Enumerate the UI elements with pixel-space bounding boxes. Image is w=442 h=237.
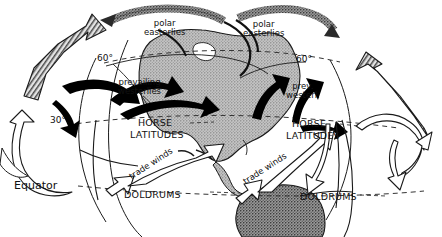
label-horse-right-line2: LATITUDES: [286, 131, 340, 141]
label-horse-right-line1: HORSE: [292, 119, 326, 129]
label-prevailing-westerlies: prevailing westerlies: [118, 78, 161, 95]
label-doldrums-left: DOLDRUMS: [124, 190, 181, 200]
label-latitude-30-left: 30°: [50, 116, 66, 125]
label-latitude-60-left: 60°: [97, 54, 113, 63]
label-equator: Equator: [14, 180, 57, 191]
polar-easterlies-right-line2: easterlies: [243, 29, 284, 38]
wind-circulation-diagram: polar easterlies polar easterlies 60° 60…: [0, 0, 442, 237]
landmass-north-america: [139, 30, 300, 162]
label-prev-westerlies-right: prev. westerl.: [286, 82, 320, 99]
cell-arrow-right-lower: [388, 132, 432, 190]
cell-arrow-right-upper: [356, 114, 424, 150]
label-latitude-60-right: 60°: [296, 55, 312, 64]
prevailing-westerlies-line2: westerlies: [118, 87, 161, 96]
label-polar-easterlies-right: polar easterlies: [243, 20, 284, 37]
label-polar-easterlies-left: polar easterlies: [144, 19, 185, 36]
polar-easterlies-left-line2: easterlies: [144, 28, 185, 37]
label-doldrums-right: DOLDRUMS: [300, 192, 357, 202]
label-horse-left-line1: HORSE: [138, 118, 172, 128]
prev-westerlies-right-line2: westerl.: [286, 91, 320, 100]
diagram-canvas: [0, 0, 442, 237]
label-horse-left-line2: LATITUDES: [130, 130, 184, 140]
